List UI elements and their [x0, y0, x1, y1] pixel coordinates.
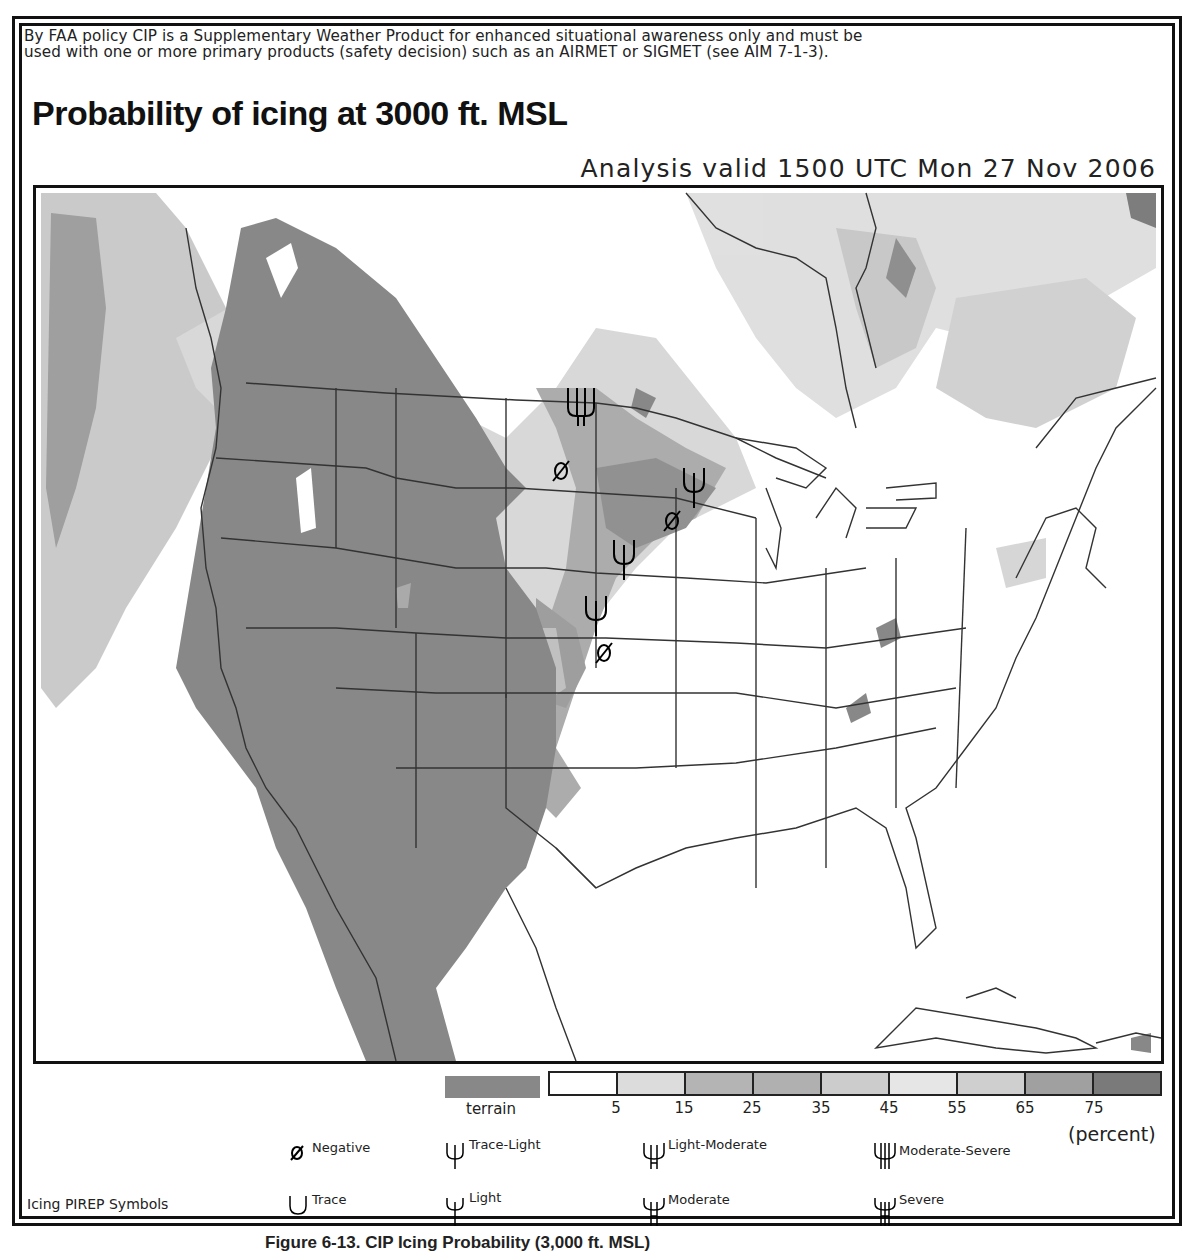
legend-trace-light: Trace-Light — [445, 1137, 595, 1173]
terrain-label: terrain — [466, 1100, 516, 1118]
legend-light-moderate: Light-Moderate — [642, 1137, 802, 1173]
scale-segment-1 — [618, 1073, 686, 1094]
scale-tick: 35 — [811, 1099, 830, 1117]
scale-tick: 75 — [1084, 1099, 1103, 1117]
severe-icon — [873, 1192, 897, 1226]
scale-segment-8 — [1094, 1073, 1160, 1094]
scale-segment-0 — [550, 1073, 618, 1094]
map-canvas — [36, 188, 1161, 1061]
negative-icon — [288, 1140, 306, 1162]
light-moderate-icon — [642, 1137, 666, 1173]
disclaimer-line-1: By FAA policy CIP is a Supplementary Wea… — [24, 28, 1174, 44]
scale-tick: 45 — [879, 1099, 898, 1117]
terrain-swatch — [445, 1076, 540, 1098]
trace-light-icon — [445, 1137, 465, 1173]
legend-moderate-severe: Moderate-Severe — [873, 1137, 1063, 1173]
light-icon — [445, 1190, 465, 1226]
figure-caption: Figure 6-13. CIP Icing Probability (3,00… — [265, 1233, 650, 1253]
moderate-severe-icon — [873, 1137, 897, 1173]
legend-negative: Negative — [288, 1140, 408, 1170]
icing-probability-map — [33, 185, 1164, 1064]
legend-moderate: Moderate — [642, 1192, 782, 1226]
scale-tick: 5 — [611, 1099, 621, 1117]
scale-tick: 55 — [947, 1099, 966, 1117]
pirep-legend-title: Icing PIREP Symbols — [27, 1196, 168, 1212]
analysis-valid-time: Analysis valid 1500 UTC Mon 27 Nov 2006 — [581, 154, 1156, 183]
scale-segment-2 — [686, 1073, 754, 1094]
scale-tick: 15 — [674, 1099, 693, 1117]
scale-segment-4 — [822, 1073, 890, 1094]
disclaimer-line-2: used with one or more primary products (… — [24, 44, 1174, 60]
pirep-negative-icon — [596, 643, 612, 663]
scale-tick: 25 — [742, 1099, 761, 1117]
scale-segment-5 — [890, 1073, 958, 1094]
map-title: Probability of icing at 3000 ft. MSL — [32, 94, 568, 133]
probability-color-bar — [548, 1071, 1162, 1096]
moderate-icon — [642, 1192, 666, 1226]
legend-light: Light — [445, 1190, 545, 1226]
scale-segment-7 — [1026, 1073, 1094, 1094]
scale-segment-3 — [754, 1073, 822, 1094]
legend-severe: Severe — [873, 1192, 993, 1226]
scale-tick: 65 — [1015, 1099, 1034, 1117]
trace-icon — [288, 1192, 308, 1218]
scale-unit-label: (percent) — [1068, 1123, 1156, 1145]
faa-disclaimer: By FAA policy CIP is a Supplementary Wea… — [24, 28, 1174, 60]
scale-segment-6 — [958, 1073, 1026, 1094]
legend-trace: Trace — [288, 1192, 388, 1220]
